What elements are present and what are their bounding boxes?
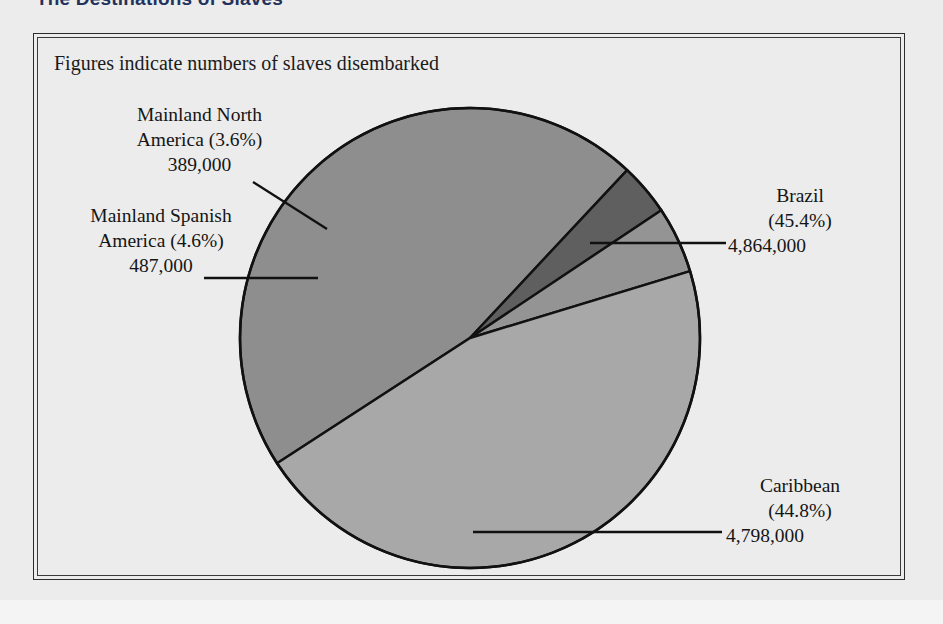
label-caribbean: Caribbean (44.8%) 4,798,000 bbox=[726, 473, 886, 548]
label-mainland-north-america: Mainland North America (3.6%) 389,000 bbox=[92, 102, 307, 177]
label-caribbean-line2: (44.8%) bbox=[726, 498, 886, 523]
label-mainland-spanish-america: Mainland Spanish America (4.6%) 487,000 bbox=[42, 203, 280, 278]
label-msa-line2: America (4.6%) bbox=[42, 228, 280, 253]
page-title: The Destinations of Slaves bbox=[36, 0, 283, 10]
paper-bottom-margin bbox=[0, 600, 943, 624]
label-mna-value: 389,000 bbox=[92, 152, 307, 177]
label-caribbean-line1: Caribbean bbox=[726, 473, 886, 498]
label-brazil: Brazil (45.4%) 4,864,000 bbox=[728, 183, 878, 258]
label-msa-line1: Mainland Spanish bbox=[42, 203, 280, 228]
label-mna-line1: Mainland North bbox=[92, 102, 307, 127]
label-msa-value: 487,000 bbox=[42, 253, 280, 278]
figure-page: The Destinations of Slaves Figures indic… bbox=[0, 0, 943, 624]
label-brazil-line2: (45.4%) bbox=[728, 208, 878, 233]
label-brazil-line1: Brazil bbox=[728, 183, 878, 208]
figure-caption: Figures indicate numbers of slaves disem… bbox=[54, 52, 439, 75]
label-mna-line2: America (3.6%) bbox=[92, 127, 307, 152]
label-brazil-value: 4,864,000 bbox=[728, 233, 878, 258]
label-caribbean-value: 4,798,000 bbox=[726, 523, 886, 548]
